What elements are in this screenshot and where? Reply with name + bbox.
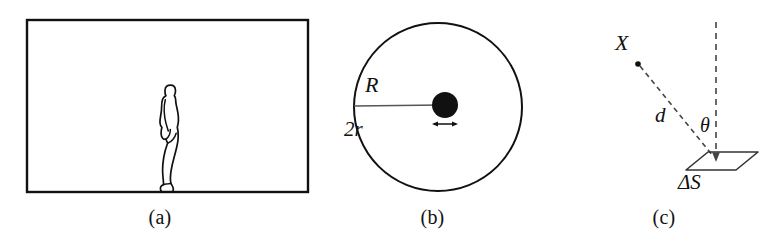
panel-a: (a)	[0, 0, 320, 250]
surface-patch-parallelogram	[686, 152, 758, 170]
label-angle-theta: θ	[700, 114, 710, 137]
line-of-sight	[640, 66, 713, 156]
inner-disc	[432, 92, 458, 118]
panel-c: X d θ ΔS (c)	[545, 0, 783, 250]
label-area-element-deltaS: ΔS	[678, 170, 701, 195]
radius-line	[354, 105, 442, 106]
label-diameter-2r: 2r	[344, 117, 363, 142]
label-radius-R: R	[365, 72, 378, 98]
panel-a-caption: (a)	[0, 206, 320, 229]
panel-b: R 2r (b)	[320, 0, 545, 250]
label-source-X: X	[615, 30, 628, 56]
label-distance-d: d	[655, 103, 666, 128]
panel-c-caption: (c)	[545, 206, 783, 229]
panel-b-caption: (b)	[320, 206, 545, 229]
surface-normal-line	[712, 22, 720, 162]
human-silhouette-icon	[160, 85, 179, 191]
figure-root: (a) R 2r (b)	[0, 0, 783, 250]
source-point-dot	[635, 61, 641, 67]
diameter-arrow	[432, 121, 458, 126]
